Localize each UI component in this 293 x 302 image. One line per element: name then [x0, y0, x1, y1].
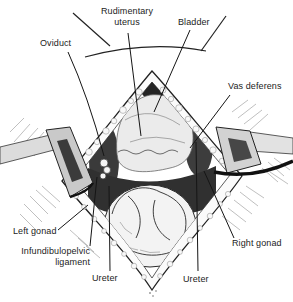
label-vas-deferens: Vas deferens — [228, 81, 282, 92]
label-left-gonad: Left gonad — [13, 226, 57, 237]
retractor-right — [214, 127, 293, 174]
label-ureter-right: Ureter — [183, 274, 209, 285]
label-infundibulopelvic-ligament: Infundibulopelvic ligament — [4, 246, 90, 268]
surgical-anatomy-illustration: Rudimentary uterus Bladder Oviduct Vas d… — [0, 0, 293, 302]
bowel-loops — [104, 185, 196, 267]
label-bladder: Bladder — [178, 17, 210, 28]
leader-left-gonad — [58, 205, 88, 230]
bottom-vertex-specks — [149, 290, 157, 296]
retractor-left — [0, 127, 93, 197]
label-right-gonad: Right gonad — [232, 238, 282, 249]
label-ureter-left: Ureter — [92, 273, 118, 284]
label-rudimentary-uterus: Rudimentary uterus — [88, 6, 166, 28]
label-oviduct: Oviduct — [40, 38, 71, 49]
